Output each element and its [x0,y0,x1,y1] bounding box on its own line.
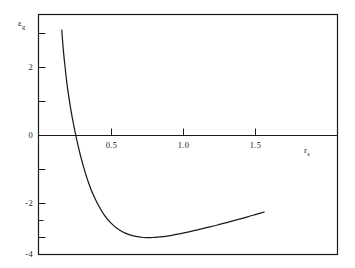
figure-container: εg rs 2 0 -2 -4 0.5 1.0 1.5 [0,0,355,268]
y-tick-label-neg4: -4 [14,249,33,259]
plot-frame [39,15,338,255]
x-tick-marks [112,129,256,136]
x-axis-label-subscript: s [307,150,310,157]
x-tick-label-1-5: 1.5 [240,140,271,150]
y-axis-label: εg [18,18,25,30]
y-tick-label-neg2: -2 [14,198,33,208]
y-tick-marks [39,34,46,255]
y-tick-label-2: 2 [18,62,33,72]
y-axis-label-subscript: g [22,23,25,30]
data-series-line [62,30,264,238]
x-tick-label-0-5: 0.5 [96,140,127,150]
chart-svg [0,0,355,268]
x-tick-label-1-0: 1.0 [168,140,199,150]
y-tick-label-0: 0 [18,130,33,140]
x-axis-label: rs [304,145,310,157]
